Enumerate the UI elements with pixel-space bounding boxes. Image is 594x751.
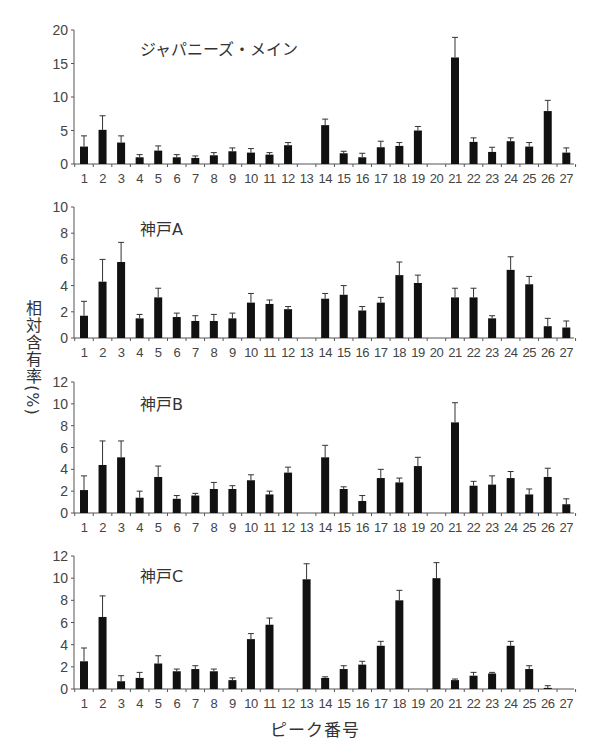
bar bbox=[525, 284, 533, 338]
bar bbox=[470, 142, 478, 164]
x-tick-label: 24 bbox=[504, 520, 518, 535]
bar bbox=[358, 310, 366, 338]
bar bbox=[507, 270, 515, 338]
bar bbox=[117, 457, 125, 513]
x-tick-label: 24 bbox=[504, 171, 518, 186]
x-tick-label: 16 bbox=[356, 520, 370, 535]
y-tick-label: 4 bbox=[60, 461, 68, 477]
bar bbox=[228, 318, 236, 338]
x-tick-label: 11 bbox=[263, 520, 276, 535]
bar bbox=[154, 151, 162, 164]
bar bbox=[358, 501, 366, 513]
x-tick-label: 8 bbox=[210, 171, 217, 186]
bar bbox=[191, 158, 199, 164]
y-tick-label: 20 bbox=[52, 22, 68, 38]
bar bbox=[247, 153, 255, 164]
bar bbox=[191, 321, 199, 338]
x-tick-label: 2 bbox=[99, 696, 106, 711]
x-tick-label: 21 bbox=[448, 345, 462, 360]
bar bbox=[340, 153, 348, 164]
x-tick-label: 6 bbox=[173, 171, 180, 186]
y-tick-label: 4 bbox=[60, 637, 68, 653]
y-tick-label: 0 bbox=[60, 681, 68, 697]
bar bbox=[173, 157, 181, 164]
bar bbox=[377, 478, 385, 513]
x-tick-label: 21 bbox=[448, 171, 462, 186]
bar bbox=[228, 151, 236, 164]
x-tick-label: 26 bbox=[541, 520, 555, 535]
x-tick-label: 13 bbox=[300, 696, 314, 711]
y-tick-label: 8 bbox=[60, 592, 68, 608]
bar bbox=[284, 145, 292, 164]
x-tick-label: 18 bbox=[393, 520, 407, 535]
x-tick-label: 6 bbox=[173, 345, 180, 360]
y-tick-label: 8 bbox=[60, 225, 68, 241]
x-tick-label: 23 bbox=[485, 171, 499, 186]
x-tick-label: 12 bbox=[281, 345, 295, 360]
x-tick-label: 1 bbox=[81, 345, 88, 360]
x-tick-label: 12 bbox=[281, 696, 295, 711]
x-tick-label: 18 bbox=[393, 696, 407, 711]
y-tick-label: 10 bbox=[52, 396, 68, 412]
x-tick-label: 16 bbox=[356, 171, 370, 186]
bar bbox=[395, 275, 403, 338]
bar bbox=[154, 477, 162, 513]
bar bbox=[544, 477, 552, 513]
panel-title: 神戸B bbox=[140, 395, 183, 414]
bar bbox=[191, 496, 199, 513]
y-tick-label: 6 bbox=[60, 615, 68, 631]
x-tick-label: 7 bbox=[192, 171, 199, 186]
x-tick-label: 19 bbox=[411, 171, 425, 186]
x-tick-label: 24 bbox=[504, 345, 518, 360]
bar bbox=[488, 485, 496, 513]
y-axis-label: 相対含有率(%) bbox=[14, 300, 44, 416]
x-tick-label: 9 bbox=[229, 696, 236, 711]
bar bbox=[451, 297, 459, 338]
x-tick-label: 25 bbox=[522, 520, 536, 535]
bar bbox=[562, 328, 570, 338]
x-tick-label: 8 bbox=[210, 520, 217, 535]
y-tick-label: 6 bbox=[60, 440, 68, 456]
x-tick-label: 20 bbox=[430, 171, 444, 186]
bar bbox=[358, 157, 366, 164]
bar bbox=[228, 489, 236, 513]
x-tick-label: 20 bbox=[430, 520, 444, 535]
x-tick-label: 10 bbox=[244, 696, 258, 711]
bar bbox=[414, 466, 422, 513]
bar bbox=[80, 316, 88, 338]
bar bbox=[80, 147, 88, 164]
y-tick-label: 0 bbox=[60, 330, 68, 346]
y-tick-label: 15 bbox=[52, 56, 68, 72]
x-tick-label: 10 bbox=[244, 171, 258, 186]
x-tick-label: 14 bbox=[318, 345, 332, 360]
y-tick-label: 4 bbox=[60, 278, 68, 294]
bar bbox=[99, 465, 107, 513]
x-tick-label: 18 bbox=[393, 345, 407, 360]
bar bbox=[136, 157, 144, 164]
x-tick-label: 14 bbox=[318, 696, 332, 711]
bar bbox=[451, 422, 459, 513]
x-tick-label: 19 bbox=[411, 696, 425, 711]
x-tick-label: 3 bbox=[118, 171, 125, 186]
bar bbox=[247, 639, 255, 689]
x-tick-label: 17 bbox=[374, 345, 388, 360]
bar bbox=[470, 297, 478, 338]
bar bbox=[191, 669, 199, 689]
bar bbox=[266, 494, 274, 513]
bar bbox=[544, 688, 552, 689]
bar bbox=[340, 489, 348, 513]
y-tick-label: 2 bbox=[60, 304, 68, 320]
x-tick-label: 4 bbox=[136, 345, 143, 360]
y-tick-label: 10 bbox=[52, 89, 68, 105]
x-tick-label: 27 bbox=[560, 520, 574, 535]
bar bbox=[358, 665, 366, 689]
x-tick-label: 6 bbox=[173, 520, 180, 535]
x-tick-label: 7 bbox=[192, 696, 199, 711]
x-tick-label: 13 bbox=[300, 520, 314, 535]
x-tick-label: 15 bbox=[337, 520, 351, 535]
bar bbox=[247, 480, 255, 513]
x-tick-label: 9 bbox=[229, 520, 236, 535]
y-tick-label: 12 bbox=[52, 548, 68, 564]
x-tick-label: 11 bbox=[263, 696, 276, 711]
y-tick-label: 2 bbox=[60, 659, 68, 675]
